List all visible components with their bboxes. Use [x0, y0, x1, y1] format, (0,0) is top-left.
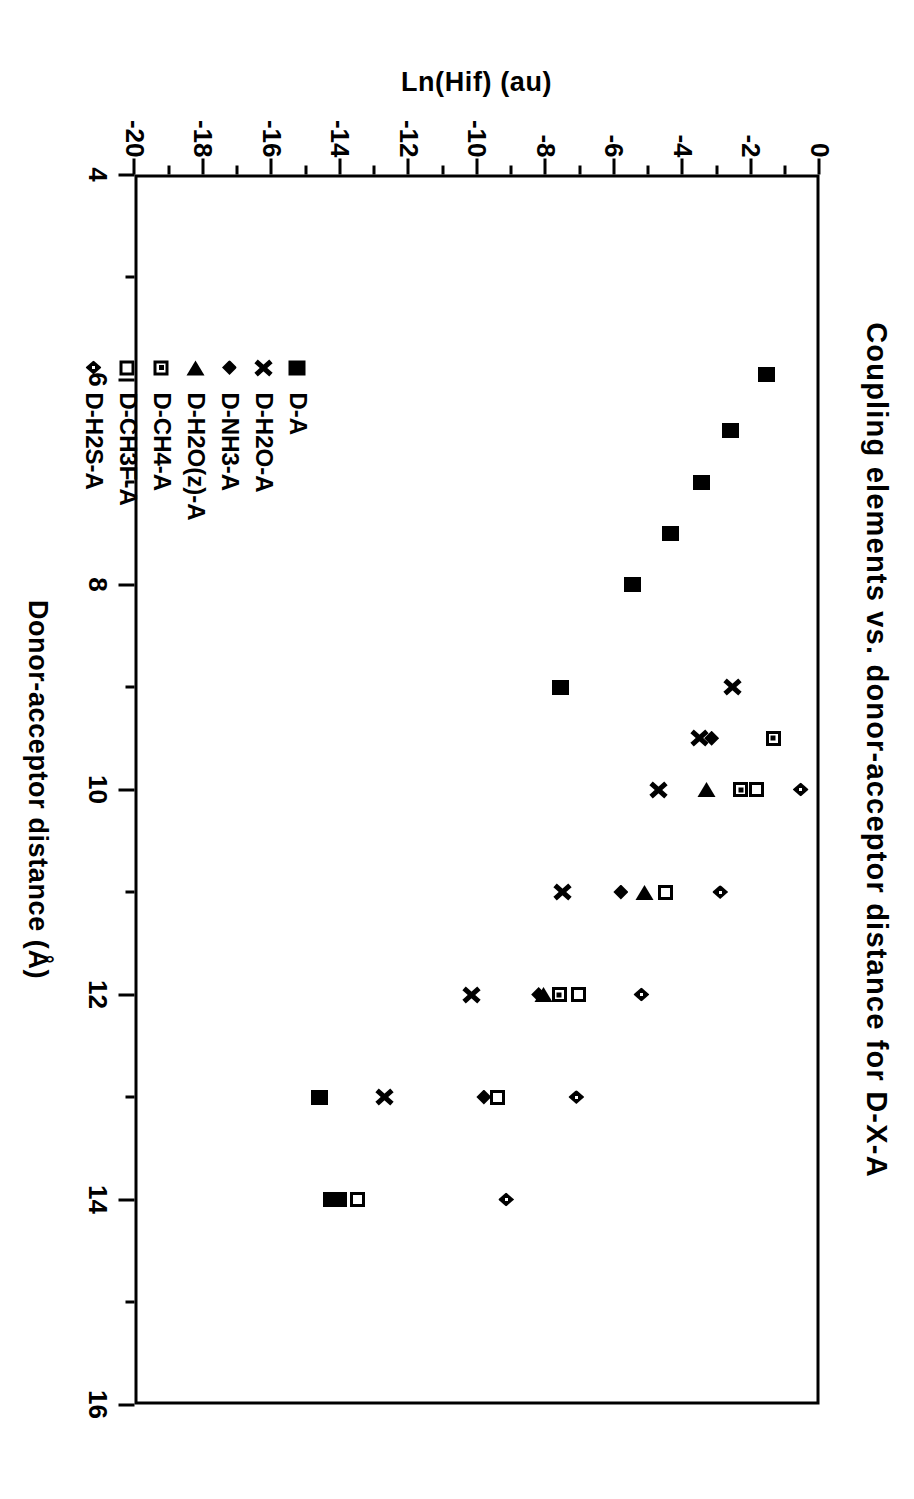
data-point-d-ch3f-a	[349, 1192, 364, 1207]
data-point-d-a	[552, 679, 569, 694]
legend-item-d-nh3-a: D-NH3-A	[212, 352, 246, 520]
x-minor-tick	[125, 1300, 134, 1303]
x-minor-tick	[125, 275, 134, 278]
legend-symbol	[120, 352, 135, 382]
data-point-d-h2o-a	[552, 882, 572, 902]
data-point-d-nh3-a	[476, 1089, 491, 1104]
x-tick-label: 4	[81, 167, 112, 181]
filled-diamond-icon	[704, 730, 719, 745]
legend-item-d-h2s-a: D-H2S-A	[76, 352, 110, 520]
x-tick	[118, 1198, 134, 1201]
x-tick-label: 12	[81, 980, 112, 1009]
data-point-d-ch3f-a	[490, 1089, 505, 1104]
x-minor-tick	[125, 1095, 134, 1098]
x-tick	[118, 788, 134, 791]
filled-diamond-icon	[222, 360, 237, 375]
y-tick	[270, 158, 273, 174]
x-minor-tick	[125, 685, 134, 688]
y-tick	[201, 158, 204, 174]
data-point-d-h2o(z)-a	[534, 987, 552, 1002]
data-point-d-ch3f-a	[748, 782, 763, 797]
y-tick-label: -18	[187, 69, 218, 157]
filled-square-icon	[624, 577, 641, 592]
cross-x-icon	[722, 677, 742, 697]
x-tick-label: 14	[81, 1185, 112, 1214]
data-point-d-nh3-a	[613, 884, 628, 899]
legend-symbol	[289, 352, 306, 382]
open-square-icon	[349, 1192, 364, 1207]
cross-x-icon	[648, 779, 668, 799]
data-point-d-h2s-a	[568, 1090, 584, 1104]
y-tick	[338, 158, 341, 174]
legend-item-d-ch4-a: D-CH4-A	[144, 352, 178, 520]
data-point-d-a	[692, 474, 709, 489]
y-minor-tick	[235, 165, 238, 174]
dotted-square-icon	[154, 360, 169, 375]
x-tick-label: 8	[81, 577, 112, 591]
y-minor-tick	[509, 165, 512, 174]
open-square-icon	[490, 1089, 505, 1104]
data-point-d-h2s-a	[792, 782, 808, 796]
small-diamond-icon	[633, 987, 649, 1001]
chart-title: Coupling elements vs. donor-acceptor dis…	[859, 0, 892, 1499]
y-minor-tick	[578, 165, 581, 174]
legend-symbol	[85, 352, 101, 382]
y-tick	[475, 158, 478, 174]
data-point-d-ch3f-a	[657, 884, 672, 899]
dotted-square-icon	[733, 782, 748, 797]
x-minor-tick	[125, 890, 134, 893]
figure-frame: Coupling elements vs. donor-acceptor dis…	[0, 0, 914, 1499]
data-point-d-ch4-a	[551, 987, 566, 1002]
small-diamond-icon	[712, 885, 728, 899]
y-tick	[818, 158, 821, 174]
legend-label: D-A	[283, 392, 311, 435]
legend-label: D-NH3-A	[215, 392, 243, 491]
filled-square-icon	[322, 1192, 339, 1207]
filled-square-icon	[662, 525, 679, 540]
data-point-d-ch4-a	[733, 782, 748, 797]
legend-symbol	[154, 352, 169, 382]
y-tick-label: -20	[119, 69, 150, 157]
data-point-d-ch4-a	[765, 730, 780, 745]
filled-triangle-left-icon	[635, 884, 653, 899]
legend-label: D-H2S-A	[79, 392, 107, 489]
y-minor-tick	[715, 165, 718, 174]
legend-symbol	[222, 352, 237, 382]
filled-square-icon	[552, 679, 569, 694]
data-point-d-h2o-a	[722, 677, 742, 697]
x-axis-title: Donor-acceptor distance (Å)	[21, 174, 52, 1404]
data-point-d-ch3f-a	[570, 987, 585, 1002]
data-point-d-h2s-a	[712, 885, 728, 899]
legend-item-d-h2o-a: D-H2O-A	[246, 352, 280, 520]
rotated-figure: Coupling elements vs. donor-acceptor dis…	[0, 0, 914, 1499]
open-square-icon	[657, 884, 672, 899]
dotted-square-icon	[765, 730, 780, 745]
data-point-d-a	[757, 366, 774, 381]
y-tick	[133, 158, 136, 174]
filled-triangle-left-icon	[697, 782, 715, 797]
data-point-d-nh3-a	[704, 730, 719, 745]
dotted-square-icon	[551, 987, 566, 1002]
y-axis-title: Ln(Hif) (au)	[227, 66, 727, 97]
data-point-d-h2o-a	[648, 779, 668, 799]
data-point-d-a	[721, 423, 738, 438]
legend-label: D-CH4-A	[147, 392, 175, 491]
x-tick	[118, 993, 134, 996]
small-diamond-icon	[498, 1192, 514, 1206]
y-minor-tick	[441, 165, 444, 174]
y-minor-tick	[304, 165, 307, 174]
y-tick-label: 0	[804, 69, 835, 157]
filled-triangle-left-icon	[186, 360, 204, 375]
x-tick-label: 10	[81, 775, 112, 804]
data-point-d-h2s-a	[633, 987, 649, 1001]
legend-symbol	[186, 352, 204, 382]
y-minor-tick	[783, 165, 786, 174]
filled-triangle-left-icon	[534, 987, 552, 1002]
y-minor-tick	[167, 165, 170, 174]
x-tick	[118, 1403, 134, 1406]
y-tick	[749, 158, 752, 174]
data-point-d-a	[662, 525, 679, 540]
data-point-d-a	[624, 577, 641, 592]
filled-square-icon	[757, 366, 774, 381]
cross-x-icon	[374, 1087, 394, 1107]
